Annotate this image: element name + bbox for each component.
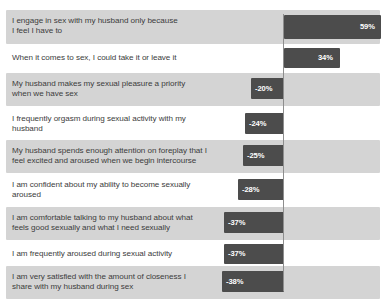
zero-axis-line [283,14,284,291]
row-label: My husband spends enough attention on fo… [12,146,236,166]
chart-row: I am confident about my ability to becom… [0,174,386,207]
chart-row: When it comes to sex, I could take it or… [0,45,386,72]
bar-value-label: -25% [247,152,264,160]
plot-area: I engage in sex with my husband only bec… [0,0,386,302]
bar-value-label: -37% [228,219,245,227]
row-label: I am comfortable talking to my husband a… [12,213,236,233]
row-label: I am very satisfied with the amount of c… [12,272,236,292]
bar-value-label: -24% [249,120,266,128]
bar-value-label: -20% [255,85,272,93]
bar-value-label: 59% [360,23,375,31]
diverging-bar-chart: I engage in sex with my husband only bec… [0,0,386,302]
row-label: I frequently orgasm during sexual activi… [12,114,236,134]
chart-row: I frequently orgasm during sexual activi… [0,108,386,141]
row-label: When it comes to sex, I could take it or… [12,53,236,63]
chart-row: My husband spends enough attention on fo… [0,140,386,173]
bar-value-label: 34% [318,54,333,62]
row-label: My husband makes my sexual pleasure a pr… [12,79,236,99]
chart-row: My husband makes my sexual pleasure a pr… [0,73,386,106]
chart-row: I am very satisfied with the amount of c… [0,266,386,299]
bar-value-label: -38% [226,278,243,286]
row-label: I am frequently aroused during sexual ac… [12,249,236,259]
row-label: I am confident about my ability to becom… [12,180,236,200]
bar-value-label: -28% [242,186,259,194]
chart-row: I am frequently aroused during sexual ac… [0,241,386,268]
chart-row: I am comfortable talking to my husband a… [0,207,386,240]
row-label: I engage in sex with my husband only bec… [12,16,236,36]
chart-row: I engage in sex with my husband only bec… [0,10,386,44]
bar-value-label: -37% [228,250,245,258]
